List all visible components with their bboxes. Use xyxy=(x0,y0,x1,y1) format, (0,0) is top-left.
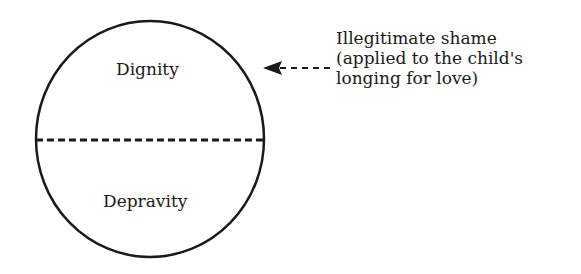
annotation-line-2: (applied to the child's xyxy=(336,48,523,68)
annotation-line-1: Illegitimate shame xyxy=(336,28,523,48)
depravity-label: Depravity xyxy=(103,191,187,211)
arrow-icon xyxy=(263,61,330,75)
annotation-line-3: longing for love) xyxy=(336,68,523,88)
dignity-label: Dignity xyxy=(116,59,179,79)
illegitimate-shame-annotation: Illegitimate shame (applied to the child… xyxy=(336,28,523,88)
